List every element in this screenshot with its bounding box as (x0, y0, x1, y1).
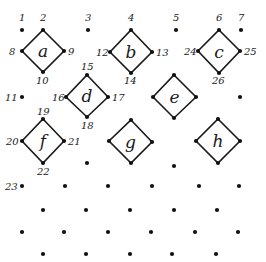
point-label: 11 (5, 92, 18, 103)
grid-dot (41, 252, 45, 256)
vertex-dot (194, 95, 198, 99)
square-g: g (109, 120, 152, 163)
vertex-dot (20, 139, 24, 143)
point-label: 26 (211, 75, 225, 86)
grid-dot (84, 252, 88, 256)
point-label: 4 (127, 12, 134, 23)
grid-dot (149, 230, 153, 234)
vertex-dot (107, 139, 111, 143)
grid-dot (197, 184, 201, 188)
point-label: 19 (37, 106, 50, 117)
dot-grid-diagram: abcdefgh 1234567891011121314151617181920… (0, 0, 266, 262)
square-letter: e (169, 87, 179, 107)
point-label: 17 (112, 92, 125, 103)
point-label: 9 (68, 46, 75, 57)
grid-dot (214, 252, 218, 256)
point-label: 12 (96, 47, 109, 58)
square-letter: b (126, 42, 137, 62)
square-letter: c (214, 42, 224, 62)
point-label: 21 (67, 136, 81, 147)
square-letter: g (125, 132, 136, 152)
point-label: 13 (156, 47, 169, 58)
vertex-dot (151, 95, 155, 99)
vertex-dot (20, 49, 24, 53)
square-e: e (153, 75, 196, 118)
vertex-dot (172, 73, 176, 77)
grid-dot (215, 208, 219, 212)
square-c: c (198, 30, 240, 73)
grid-dot (106, 230, 110, 234)
grid-dot (106, 184, 110, 188)
vertex-dot (85, 115, 89, 119)
vertex-dot (216, 117, 220, 121)
point-label: 15 (81, 61, 94, 72)
grid-dot (238, 95, 242, 99)
point-label: 14 (124, 75, 137, 86)
point-label: 3 (85, 12, 91, 23)
grid-dot (128, 252, 132, 256)
point-label: 16 (52, 92, 65, 103)
vertex-dot (41, 28, 45, 32)
vertex-dot (194, 139, 198, 143)
grid-dot (174, 28, 178, 32)
vertex-dot (217, 28, 221, 32)
point-label: 24 (183, 46, 197, 57)
grid-dot (62, 230, 66, 234)
grid-dot (41, 208, 45, 212)
grid-dot (237, 184, 241, 188)
vertex-dot (150, 140, 154, 144)
grid-dot (239, 28, 243, 32)
square-f: f (22, 119, 64, 163)
vertex-dot (41, 70, 45, 74)
vertex-dot (172, 116, 176, 120)
square-a: a (22, 30, 64, 72)
square-b: b (110, 30, 152, 73)
point-label: 1 (19, 12, 25, 23)
square-letter: h (213, 131, 224, 151)
vertex-dot (129, 28, 133, 32)
vertex-dot (238, 139, 242, 143)
grid-dot (20, 28, 24, 32)
grid-dot (20, 230, 24, 234)
vertex-dot (106, 95, 110, 99)
grid-dot (236, 230, 240, 234)
point-label: 7 (238, 12, 245, 23)
point-label: 6 (216, 12, 223, 23)
vertex-dot (129, 161, 133, 165)
grid-dot (170, 252, 174, 256)
vertex-dot (62, 139, 66, 143)
point-label: 23 (4, 181, 18, 192)
vertex-dot (41, 117, 45, 121)
vertex-dot (85, 73, 89, 77)
grid-dot (63, 184, 67, 188)
grid-dot (85, 161, 89, 165)
point-label: 22 (36, 166, 50, 177)
grid-dot (20, 184, 24, 188)
square-letter: f (38, 131, 49, 151)
square-letter: a (38, 41, 48, 61)
grid-dot (172, 164, 176, 168)
point-label: 5 (173, 12, 179, 23)
grid-dot (172, 208, 176, 212)
vertex-dot (238, 49, 242, 53)
grid-dot (128, 208, 132, 212)
square-d: d (66, 75, 108, 117)
point-label: 18 (81, 120, 94, 131)
square-h: h (196, 119, 240, 163)
vertex-dot (150, 50, 154, 54)
vertex-dot (216, 161, 220, 165)
point-label: 2 (39, 12, 46, 23)
point-label: 10 (36, 75, 49, 86)
vertex-dot (41, 161, 45, 165)
grid-dot (84, 208, 88, 212)
vertex-dot (129, 118, 133, 122)
square-letter: d (82, 86, 93, 106)
point-label: 25 (243, 46, 257, 57)
grid-dot (193, 230, 197, 234)
vertex-dot (62, 49, 66, 53)
grid-dot (150, 184, 154, 188)
grid-dot (86, 28, 90, 32)
point-label: 20 (5, 136, 19, 147)
point-label: 8 (9, 46, 15, 57)
grid-dot (20, 95, 24, 99)
